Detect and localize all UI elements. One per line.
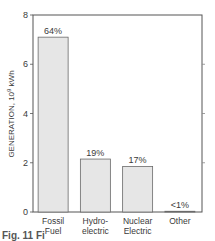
y-axis-label: GENERATION, 109 kWh (6, 70, 16, 157)
y-tick-label: 4 (23, 109, 28, 119)
bars: 64%19%17%<1% (38, 26, 195, 212)
category-label: Electric (124, 226, 153, 236)
category-label: electric (82, 226, 110, 236)
bar-hydro-electric (80, 159, 110, 212)
bar-other (165, 211, 195, 212)
category-label: Hydro- (83, 216, 109, 226)
bar-fossil-fuel (38, 37, 68, 212)
bar-percent-label: 64% (44, 26, 62, 36)
bar-percent-label: 17% (129, 155, 147, 165)
y-tick-label: 2 (23, 158, 28, 168)
category-label: Nuclear (123, 216, 152, 226)
category-label: Other (169, 216, 190, 226)
bar-chart: 02468 64%19%17%<1% FossilFuelHydro-elect… (0, 0, 215, 241)
bar-nuclear-electric (123, 166, 153, 212)
y-tick-label: 0 (23, 207, 28, 217)
category-label: Fuel (45, 226, 62, 236)
y-tick-label: 6 (23, 59, 28, 69)
figure-caption-fragment: Fig. 11 Fi (2, 230, 45, 241)
bar-percent-label: 19% (86, 148, 104, 158)
category-label: Fossil (42, 216, 64, 226)
y-tick-label: 8 (23, 10, 28, 20)
x-axis-category-labels: FossilFuelHydro-electricNuclearElectricO… (42, 216, 191, 236)
bar-percent-label: <1% (171, 200, 189, 210)
